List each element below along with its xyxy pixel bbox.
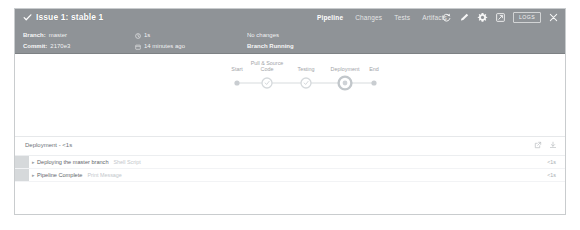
- changes-text: No changes: [247, 30, 279, 41]
- changes-row: No changes: [247, 30, 294, 41]
- stage-label-end[interactable]: End: [369, 66, 379, 72]
- stage-node-testing: [301, 78, 311, 88]
- status-text: Branch Running: [247, 41, 294, 52]
- run-metadata-column-timing: 1s 14 minutes ago: [135, 30, 185, 52]
- results-title: Deployment - <1s: [25, 142, 72, 148]
- stage-label-deployment[interactable]: Deployment: [331, 66, 360, 72]
- stage-label-end-line1: End: [369, 66, 379, 72]
- check-icon: [23, 13, 32, 22]
- branch-label: Branch:: [23, 30, 46, 41]
- commit-label: Commit:: [23, 41, 47, 52]
- stage-label-pull-source-code[interactable]: Pull & Source Code: [251, 60, 284, 72]
- commit-row: Commit: 2170e3: [23, 41, 70, 52]
- results-header: Deployment - <1s: [15, 137, 565, 156]
- pipeline-stage-graph: Start Pull & Source Code Testing Deploym…: [15, 54, 565, 136]
- step-duration: <1s: [547, 159, 556, 165]
- open-logs-icon[interactable]: [495, 12, 506, 23]
- pipeline-graph-canvas: [15, 54, 566, 136]
- branch-value: master: [49, 30, 67, 41]
- step-subtitle: Print Message: [87, 172, 121, 178]
- stage-node-deployment-core: [343, 81, 348, 86]
- commit-value[interactable]: 2170e3: [50, 41, 70, 52]
- run-metadata: Branch: master Commit: 2170e3 1s: [23, 30, 557, 52]
- stage-node-end: [371, 80, 376, 85]
- stage-results-panel: Deployment - <1s ▸ Deploying the master …: [15, 136, 565, 182]
- duration-value: 1s: [144, 30, 150, 41]
- step-status-gutter: [15, 169, 29, 181]
- stage-label-testing[interactable]: Testing: [297, 66, 314, 72]
- tab-pipeline[interactable]: Pipeline: [317, 14, 343, 22]
- chevron-right-icon[interactable]: ▸: [29, 160, 37, 165]
- external-link-icon[interactable]: [534, 141, 542, 149]
- clock-icon: [135, 33, 141, 39]
- step-subtitle: Shell Script: [114, 159, 141, 165]
- blue-ocean-run-window: Issue 1: stable 1 Pipeline Changes Tests…: [14, 8, 566, 215]
- run-metadata-column-status: No changes Branch Running: [247, 30, 294, 52]
- stage-label-start[interactable]: Start: [231, 66, 242, 72]
- stage-label-start-line1: Start: [231, 66, 242, 72]
- tab-tests[interactable]: Tests: [394, 14, 410, 22]
- stage-node-start: [234, 80, 239, 85]
- run-header: Issue 1: stable 1 Pipeline Changes Tests…: [15, 9, 565, 54]
- run-title-group: Issue 1: stable 1: [23, 12, 103, 22]
- step-status-gutter: [15, 156, 29, 168]
- run-metadata-column-source: Branch: master Commit: 2170e3: [23, 30, 70, 52]
- replay-icon[interactable]: [441, 12, 452, 23]
- stage-label-deployment-line1: Deployment: [331, 66, 360, 72]
- log-step-row[interactable]: ▸ Deploying the master branch Shell Scri…: [15, 156, 565, 169]
- page-title: Issue 1: stable 1: [36, 12, 103, 22]
- edit-icon[interactable]: [459, 12, 470, 23]
- close-icon[interactable]: [548, 12, 559, 23]
- logs-button[interactable]: LOGS: [513, 12, 541, 23]
- calendar-icon: [135, 44, 141, 50]
- time-value: 14 minutes ago: [144, 41, 185, 52]
- time-row: 14 minutes ago: [135, 41, 185, 52]
- step-duration: <1s: [547, 172, 556, 178]
- run-header-tabs: Pipeline Changes Tests Artifacts: [317, 14, 447, 22]
- branch-row: Branch: master: [23, 30, 70, 41]
- results-header-actions: [534, 141, 557, 149]
- run-header-top-row: Issue 1: stable 1 Pipeline Changes Tests…: [15, 9, 565, 29]
- tab-changes[interactable]: Changes: [355, 14, 382, 22]
- gear-icon[interactable]: [477, 12, 488, 23]
- log-step-row[interactable]: ▸ Pipeline Complete Print Message <1s: [15, 169, 565, 182]
- stage-node-pull-source-code: [262, 78, 272, 88]
- run-header-actions: LOGS: [441, 12, 559, 23]
- stage-label-pull-source-code-line2: Code: [251, 66, 284, 72]
- download-icon[interactable]: [549, 141, 557, 149]
- stage-label-testing-line1: Testing: [297, 66, 314, 72]
- status-row: Branch Running: [247, 41, 294, 52]
- chevron-right-icon[interactable]: ▸: [29, 173, 37, 178]
- duration-row: 1s: [135, 30, 185, 41]
- step-title: Pipeline Complete: [37, 172, 82, 178]
- step-title: Deploying the master branch: [37, 159, 109, 165]
